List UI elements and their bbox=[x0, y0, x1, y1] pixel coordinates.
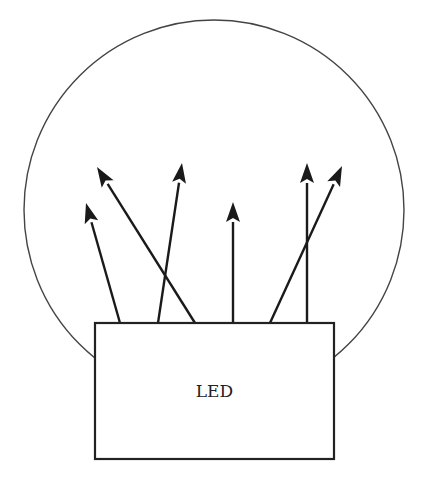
ray-line bbox=[270, 184, 334, 323]
ray-line bbox=[158, 183, 179, 323]
light-rays bbox=[85, 163, 342, 323]
led-diagram: LED bbox=[0, 0, 428, 477]
arrowhead-icon bbox=[172, 163, 186, 184]
ray-line bbox=[108, 184, 195, 323]
arrowhead-icon bbox=[300, 163, 314, 183]
arrowhead-icon bbox=[327, 166, 342, 187]
arrowhead-icon bbox=[226, 202, 240, 222]
led-label: LED bbox=[196, 381, 233, 401]
arrowhead-icon bbox=[97, 167, 114, 188]
arrowhead-icon bbox=[85, 203, 98, 224]
ray-line bbox=[91, 222, 120, 323]
